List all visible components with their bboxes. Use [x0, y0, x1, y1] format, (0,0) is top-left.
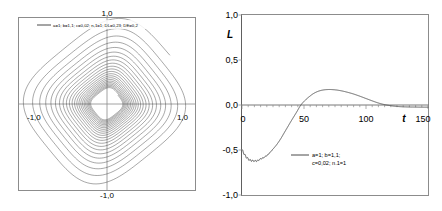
- x-axis-name: t: [402, 113, 406, 124]
- spiral-curve: [23, 18, 185, 184]
- legend-label-right-2: c=0,02; n.1=1: [312, 160, 346, 166]
- phase-trajectory: [23, 18, 185, 184]
- y-tick-label-bottom: -1,0: [100, 191, 114, 200]
- y-tick-label-top: 1,0: [101, 9, 113, 18]
- x-tick-label-1: 50: [299, 114, 309, 124]
- time-series-panel: L t 1,0 0,5 0,0 -0,5 -1,0 0 50 100 150 a…: [221, 0, 442, 211]
- x-tick-label-left: -1,0: [27, 113, 41, 122]
- y-tick-label-0: 1,0: [225, 10, 238, 20]
- legend-left: a=1; b=1,1; c=0,02; n,1=1; DL=0,23; DE=0…: [34, 20, 192, 29]
- y-tick-label-4: -1,0: [222, 190, 238, 200]
- x-tick-label-0: 0: [240, 114, 245, 124]
- x-tick-label-right: 1,0: [177, 113, 189, 122]
- legend-label-left: a=1; b=1,1; c=0,02; n,1=1; DL=0,23; DE=0…: [53, 23, 138, 28]
- phase-portrait-panel: a=1; b=1,1; c=0,02; n,1=1; DL=0,23; DE=0…: [0, 0, 221, 211]
- y-tick-label-2: 0,0: [225, 100, 238, 110]
- x-tick-label-3: 150: [415, 114, 430, 124]
- y-tick-label-1: 0,5: [225, 55, 238, 65]
- y-tick-label-3: -0,5: [222, 145, 238, 155]
- x-tick-label-2: 100: [358, 114, 373, 124]
- figure-container: a=1; b=1,1; c=0,02; n,1=1; DL=0,23; DE=0…: [0, 0, 442, 211]
- legend-label-right-1: a=1; b=1,1;: [312, 152, 341, 158]
- y-axis-name: L: [227, 29, 233, 40]
- legend-right: a=1; b=1,1; c=0,02; n.1=1: [291, 152, 346, 166]
- time-series-curve: [242, 90, 428, 162]
- phase-portrait-svg: a=1; b=1,1; c=0,02; n,1=1; DL=0,23; DE=0…: [0, 0, 221, 211]
- time-series-svg: L t 1,0 0,5 0,0 -0,5 -1,0 0 50 100 150 a…: [221, 0, 442, 211]
